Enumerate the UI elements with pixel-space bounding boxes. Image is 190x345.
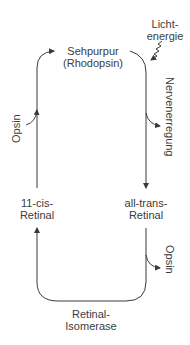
light-squiggle-icon	[151, 41, 162, 60]
annotation-light-energy: Licht- energie	[140, 18, 190, 42]
node-11-cis-retinal: 11-cis- Retinal	[10, 197, 64, 221]
node-alltrans-line1: all-trans-	[116, 197, 176, 209]
annotation-nerve-excitation: Nervenerregung	[164, 77, 176, 157]
node-cis-line1: 11-cis-	[10, 197, 64, 209]
light-line2: energie	[140, 30, 190, 42]
node-retinal-isomerase: Retinal- Isomerase	[56, 308, 126, 332]
node-sehpurpur-line2: (Rhodopsin)	[56, 57, 130, 69]
arrow-nerve-out	[146, 113, 160, 126]
arrow-opsin-in	[26, 110, 37, 125]
arrow-cis-to-sehpurpur	[37, 51, 54, 188]
annotation-opsin-in: Opsin	[10, 114, 22, 143]
isomerase-line2: Isomerase	[56, 320, 126, 332]
node-sehpurpur: Sehpurpur (Rhodopsin)	[56, 45, 130, 69]
arrow-opsin-out	[146, 255, 160, 268]
node-all-trans-retinal: all-trans- Retinal	[116, 197, 176, 221]
node-cis-line2: Retinal	[10, 209, 64, 221]
node-alltrans-line2: Retinal	[116, 209, 176, 221]
arrow-alltrans-to-cis	[37, 228, 146, 301]
arrow-sehpurpur-to-alltrans	[130, 51, 146, 188]
light-line1: Licht-	[140, 18, 190, 30]
annotation-opsin-out: Opsin	[164, 245, 176, 274]
node-sehpurpur-line1: Sehpurpur	[56, 45, 130, 57]
isomerase-line1: Retinal-	[56, 308, 126, 320]
